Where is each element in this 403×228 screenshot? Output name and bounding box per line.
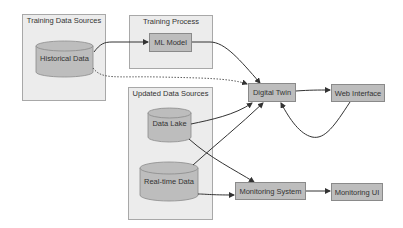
node-web-interface: Web Interface (331, 84, 385, 102)
edge-web-to-twin (281, 102, 350, 137)
edge-historical-to-ml (94, 42, 148, 52)
node-monitoring-system: Monitoring System (235, 182, 306, 200)
node-historical-data: Historical Data (36, 54, 93, 63)
node-monitoring-ui: Monitoring UI (331, 183, 383, 201)
edge-historical-to-twin-dotted (93, 68, 247, 84)
node-data-lake: Data Lake (148, 119, 191, 128)
node-real-time-data: Real-time Data (140, 177, 198, 186)
edge-twin-to-web (296, 90, 330, 91)
edge-ml-to-twin (191, 42, 260, 83)
node-digital-twin: Digital Twin (248, 83, 296, 102)
edge-realtime-to-twin (193, 103, 263, 165)
diagram-canvas: Training Data Sources Training Process U… (0, 0, 403, 228)
edge-realtime-to-monitoring (198, 194, 234, 195)
node-ml-model: ML Model (149, 33, 192, 52)
